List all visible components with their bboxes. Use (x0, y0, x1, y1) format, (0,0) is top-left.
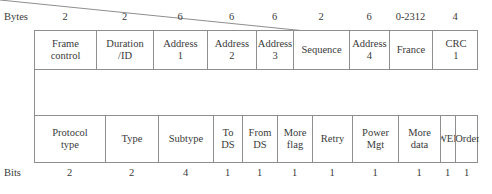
mac-frame-size-value: 6 (153, 9, 207, 25)
mac-frame-field-cell: CRC 1 (433, 31, 479, 69)
frame-control-size-value: 2 (105, 165, 158, 181)
frame-control-field-cell: More data (399, 116, 441, 162)
bytes-axis-title: Bytes (4, 9, 28, 25)
mac-frame-field-cell: Address 1 (154, 31, 208, 69)
frame-control-field-cell: From DS (243, 116, 278, 162)
frame-control-size-value: 1 (455, 165, 478, 181)
mac-frame-field-cell-label: Frame control (50, 38, 82, 62)
frame-control-field-cell: Retry (313, 116, 353, 162)
mac-frame-size-value: 6 (207, 9, 256, 25)
mac-frame-size-value: 2 (34, 9, 96, 25)
frame-control-field-table: Protocol typeTypeSubtypeTo DSFrom DSMore… (34, 115, 478, 163)
mac-frame-field-cell: Frame control (35, 31, 97, 69)
frame-control-field-cell: Power Mgt (353, 116, 399, 162)
frame-control-field-cell-label: Subtype (168, 133, 204, 145)
frame-control-field-cell: Protocol type (35, 116, 106, 162)
mac-frame-field-cell-label: France (396, 44, 427, 56)
frame-control-size-value: 1 (440, 165, 455, 181)
mac-frame-field-cell-label: Address 1 (162, 38, 198, 62)
frame-control-field-cell: More flag (278, 116, 313, 162)
mac-frame-size-value: 6 (256, 9, 293, 25)
mac-frame-field-cell: France (390, 31, 433, 69)
mac-frame-size-value: 2 (293, 9, 349, 25)
frame-control-field-cell: To DS (214, 116, 243, 162)
mac-frame-field-cell: Duration /ID (97, 31, 154, 69)
mac-frame-field-cell: Address 2 (208, 31, 257, 69)
frame-control-field-cell: Order (456, 116, 479, 162)
frame-control-field-cell: Type (106, 116, 159, 162)
frame-control-size-value: 1 (213, 165, 242, 181)
mac-frame-size-value: 4 (432, 9, 478, 25)
bits-axis-title: Bits (4, 165, 21, 181)
frame-control-field-cell-label: From DS (248, 127, 273, 151)
mac-frame-table: Frame controlDuration /IDAddress 1Addres… (34, 30, 478, 70)
frame-control-field-cell-label: More data (407, 127, 432, 151)
ieee-802-11-frame-format-diagram: Bytes 22666260-23124 Frame controlDurati… (0, 0, 492, 194)
mac-frame-size-value: 2 (96, 9, 153, 25)
frame-control-field-cell-label: Retry (320, 133, 345, 145)
frame-control-field-cell-label: WEP (441, 133, 456, 145)
frame-control-field-cell-label: More flag (283, 127, 308, 151)
expansion-guide-left-line (34, 70, 35, 115)
frame-control-field-cell-label: Order (456, 133, 479, 145)
mac-frame-field-cell-label: CRC 1 (444, 38, 467, 62)
frame-control-size-value: 1 (398, 165, 440, 181)
frame-control-field-cell-label: Protocol type (51, 127, 89, 151)
mac-frame-size-row: 22666260-23124 (34, 9, 478, 25)
mac-frame-field-cell-label: Sequence (300, 44, 342, 56)
frame-control-field-cell-label: Type (121, 133, 144, 145)
frame-control-field-cell-label: Power Mgt (361, 127, 390, 151)
frame-control-size-value: 1 (277, 165, 312, 181)
frame-control-size-value: 1 (312, 165, 352, 181)
mac-frame-field-cell-label: Address 4 (351, 38, 387, 62)
frame-control-size-row: 22411111111 (34, 165, 478, 181)
frame-control-size-value: 1 (242, 165, 277, 181)
frame-control-size-value: 2 (34, 165, 105, 181)
mac-frame-size-value: 6 (349, 9, 389, 25)
frame-control-field-cell-label: To DS (220, 127, 235, 151)
mac-frame-field-cell: Address 4 (350, 31, 390, 69)
frame-control-field-cell: WEP (441, 116, 456, 162)
mac-frame-field-cell-label: Duration /ID (105, 38, 144, 62)
frame-control-field-cell: Subtype (159, 116, 214, 162)
mac-frame-field-cell: Sequence (294, 31, 350, 69)
mac-frame-field-cell: Address 3 (257, 31, 294, 69)
mac-frame-size-value: 0-2312 (389, 9, 432, 25)
frame-control-size-value: 4 (158, 165, 213, 181)
mac-frame-field-cell-label: Address 2 (214, 38, 250, 62)
mac-frame-field-cell-label: Address 3 (257, 38, 293, 62)
frame-control-size-value: 1 (352, 165, 398, 181)
